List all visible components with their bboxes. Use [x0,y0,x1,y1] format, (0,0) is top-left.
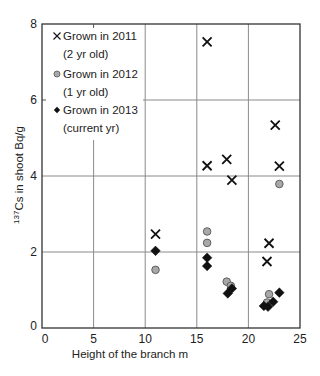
diamond-marker [275,288,285,298]
legend-label: Grown in 2013 [63,104,138,116]
x-tick-label: 0 [42,332,49,346]
x-marker [151,230,160,239]
circle-marker [276,180,284,188]
y-axis-title-main: Cs in shoot Bq/g [13,126,25,210]
x-marker [262,257,271,266]
x-tick-label: 10 [139,332,153,346]
scatter-chart: 051015202502468 Grown in 2011(2 yr old)G… [0,0,320,376]
y-tick-label: 6 [30,93,37,107]
series-x [151,37,284,266]
legend-sublabel: (2 yr old) [63,48,109,60]
legend-label: Grown in 2012 [63,68,138,80]
x-marker [222,155,231,164]
x-tick-label: 15 [190,332,204,346]
legend-marker-icon [54,71,60,77]
x-marker [271,121,280,130]
circle-marker [265,290,273,298]
y-tick-label: 8 [30,17,37,31]
legend-sublabel: (current yr) [63,122,119,134]
diamond-marker [202,261,212,271]
y-tick-label: 0 [30,319,37,333]
x-tick-label: 25 [293,332,307,346]
legend-label: Grown in 2011 [63,30,137,42]
x-tick-label: 20 [242,332,256,346]
x-tick-label: 5 [90,332,97,346]
y-tick-label: 4 [30,169,37,183]
x-marker [275,162,284,171]
circle-marker [203,239,211,247]
x-axis-title: Height of the branch m [72,348,188,360]
x-marker [203,161,212,170]
circle-marker [203,228,211,236]
diamond-marker [151,246,161,256]
y-tick-label: 2 [30,245,37,259]
legend-sublabel: (1 yr old) [63,86,109,98]
data-points [151,37,284,311]
x-marker [265,239,274,248]
series-diamond [151,246,284,311]
series-circle [152,180,283,306]
x-marker [203,37,212,46]
y-axis-title: 137Cs in shoot Bq/g [12,126,25,224]
x-marker [227,176,236,185]
circle-marker [152,266,160,274]
y-axis-title-superscript: 137 [12,210,21,224]
